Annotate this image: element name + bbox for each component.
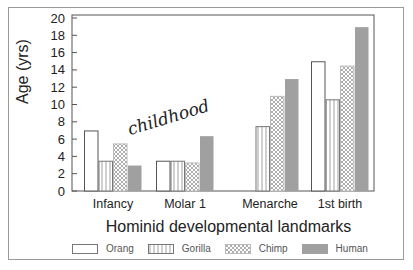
legend-item-human: Human	[302, 243, 368, 254]
y-tick-label: 10	[51, 97, 65, 112]
bar-orang	[312, 62, 326, 191]
orang-swatch-icon	[72, 244, 98, 254]
human-swatch-icon	[302, 244, 328, 254]
bar-human	[200, 136, 214, 191]
y-tick-label: 20	[51, 11, 65, 26]
y-tick-label: 6	[58, 132, 65, 147]
bar-human	[128, 166, 142, 191]
bar-gorilla	[171, 161, 185, 191]
y-tick-label: 0	[58, 184, 65, 199]
x-tick-label: Menarche	[242, 197, 298, 211]
x-tick-label: Molar 1	[164, 197, 206, 211]
bar-human	[355, 27, 369, 191]
gorilla-swatch-icon	[148, 244, 174, 254]
bar-gorilla	[256, 127, 270, 191]
legend-label: Orang	[106, 243, 134, 254]
legend-label: Chimp	[259, 243, 288, 254]
legend-label: Human	[336, 243, 368, 254]
y-tick-label: 8	[58, 114, 65, 129]
bar-human	[285, 79, 299, 191]
legend-item-chimp: Chimp	[225, 243, 288, 254]
x-axis-title: Hominid developmental landmarks	[0, 218, 413, 236]
bar-chimp	[271, 96, 285, 191]
legend: Orang Gorilla Chimp Human	[72, 243, 382, 254]
y-tick-label: 18	[51, 28, 65, 43]
y-tick-label: 12	[51, 80, 65, 95]
y-tick-label: 4	[58, 149, 65, 164]
bar-chimp	[341, 66, 355, 191]
bar-gorilla	[326, 100, 340, 191]
legend-label: Gorilla	[182, 243, 211, 254]
legend-item-orang: Orang	[72, 243, 134, 254]
x-tick-label: 1st birth	[318, 197, 363, 211]
y-axis-label: Age (yrs)	[14, 39, 32, 104]
bar-chimp	[186, 163, 200, 191]
x-tick-label: Infancy	[93, 197, 134, 211]
chimp-swatch-icon	[225, 244, 251, 254]
bar-orang	[85, 131, 99, 191]
bar-orang	[157, 161, 171, 191]
y-tick-label: 2	[58, 166, 65, 181]
y-tick-label: 14	[51, 62, 65, 77]
bar-gorilla	[99, 161, 113, 191]
bar-chimp	[114, 144, 128, 191]
legend-item-gorilla: Gorilla	[148, 243, 211, 254]
y-tick-label: 16	[51, 45, 65, 60]
